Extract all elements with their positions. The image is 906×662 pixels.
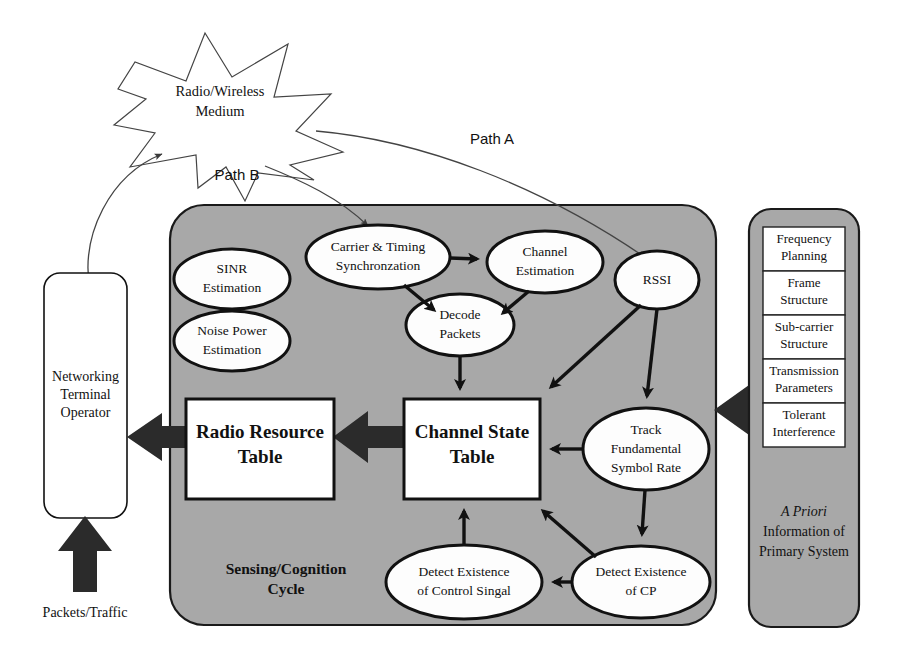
node-sinr-estimation: SINR Estimation: [174, 249, 290, 309]
diagram-canvas: Radio/Wireless Medium Path A Path B Netw…: [0, 0, 906, 662]
apriori-cell-3-line2: Parameters: [775, 380, 833, 395]
rssi-line1: RSSI: [643, 272, 672, 287]
apriori-cell-sub-carrier-structure: Sub-carrier Structure: [763, 315, 845, 359]
apriori-cell-transmission-parameters: Transmission Parameters: [763, 359, 845, 403]
decode-line1: Decode: [439, 307, 480, 322]
apriori-cell-4-line1: Tolerant: [782, 407, 826, 422]
cycle-label-line1: Sensing/Cognition: [226, 560, 347, 577]
medium-label-line1: Radio/Wireless: [176, 83, 265, 99]
operator-label-line3: Operator: [61, 405, 111, 420]
apriori-cell-3-line1: Transmission: [769, 363, 839, 378]
node-noise-power-estimation: Noise Power Estimation: [174, 311, 290, 371]
node-decode-packets: Decode Packets: [406, 294, 514, 356]
medium-label-line2: Medium: [195, 103, 245, 119]
ctrl-line1: Detect Existence: [418, 564, 509, 579]
rrt-line1: Radio Resource: [196, 421, 324, 442]
ctrl-line2: of Control Singal: [417, 583, 511, 598]
operator-label-line1: Networking: [52, 369, 119, 384]
apriori-cell-tolerant-interference: Tolerant Interference: [763, 403, 845, 447]
operator-label-line2: Terminal: [60, 387, 110, 402]
chest-line1: Channel: [523, 244, 568, 259]
apriori-cell-1-line1: Frame: [787, 275, 820, 290]
node-channel-estimation: Channel Estimation: [487, 231, 603, 293]
noise-line1: Noise Power: [197, 323, 267, 338]
track-line1: Track: [630, 422, 661, 437]
node-carrier-timing-sync: Carrier & Timing Synchronzation: [306, 225, 450, 289]
noise-line2: Estimation: [203, 342, 262, 357]
node-rssi: RSSI: [615, 251, 699, 309]
apriori-caption-line3: Primary System: [759, 544, 849, 559]
apriori-cell-frequency-planning: Frequency Planning: [763, 227, 845, 271]
rrt-line2: Table: [238, 446, 283, 467]
cp-line2: of CP: [625, 583, 656, 598]
chest-line2: Estimation: [516, 263, 575, 278]
node-detect-existence-cp: Detect Existence of CP: [572, 546, 710, 618]
cst-line1: Channel State: [415, 421, 530, 442]
operator-to-medium-arrow: [88, 154, 162, 290]
cp-line1: Detect Existence: [595, 564, 686, 579]
apriori-cell-1-line2: Structure: [780, 292, 828, 307]
node-detect-existence-control-signal: Detect Existence of Control Singal: [386, 545, 542, 619]
apriori-cell-0-line1: Frequency: [777, 231, 832, 246]
packets-traffic-label: Packets/Traffic: [43, 605, 128, 620]
carrier-line1: Carrier & Timing: [331, 239, 426, 254]
carrier-line2: Synchronzation: [336, 258, 421, 273]
sensing-cognition-diagram: Radio/Wireless Medium Path A Path B Netw…: [0, 0, 906, 662]
apriori-caption-line1: A Priori: [780, 504, 827, 519]
box-channel-state-table: Channel State Table: [404, 399, 540, 499]
path-b-label: Path B: [214, 166, 259, 183]
apriori-cell-4-line2: Interference: [773, 424, 836, 439]
cst-line2: Table: [450, 446, 495, 467]
node-track-fundamental-symbol-rate: Track Fundamental Symbol Rate: [583, 408, 709, 490]
sinr-line2: Estimation: [203, 280, 262, 295]
box-radio-resource-table: Radio Resource Table: [186, 399, 334, 499]
apriori-cell-frame-structure: Frame Structure: [763, 271, 845, 315]
packets-traffic-arrow: [58, 516, 112, 592]
apriori-cell-0-line2: Planning: [781, 248, 828, 263]
decode-line2: Packets: [439, 326, 480, 341]
path-a-label: Path A: [470, 130, 514, 147]
apriori-cell-2-line2: Structure: [780, 336, 828, 351]
track-line3: Symbol Rate: [611, 460, 681, 475]
cycle-label-line2: Cycle: [267, 580, 304, 597]
apriori-cell-2-line1: Sub-carrier: [775, 319, 834, 334]
apriori-caption-line2: Information of: [763, 524, 845, 539]
sinr-line1: SINR: [217, 261, 248, 276]
arrow-carrier-to-channel-estimation: [450, 258, 477, 259]
track-line2: Fundamental: [611, 441, 682, 456]
